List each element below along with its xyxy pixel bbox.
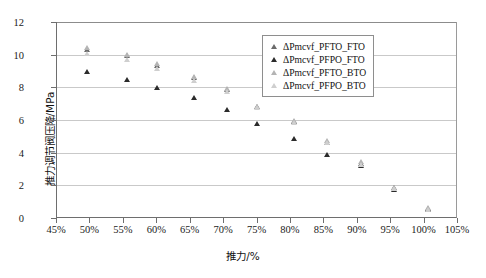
y-tick-label: 10 bbox=[0, 49, 24, 60]
triangle-marker-icon bbox=[224, 89, 230, 94]
triangle-marker-icon bbox=[191, 95, 197, 100]
y-tick-label: 6 bbox=[0, 115, 24, 126]
gridline bbox=[57, 22, 456, 23]
x-tick-mark bbox=[290, 218, 291, 223]
y-tick-mark bbox=[51, 22, 56, 23]
triangle-marker-icon bbox=[291, 120, 297, 125]
triangle-marker-icon bbox=[124, 57, 130, 62]
triangle-marker-icon bbox=[154, 85, 160, 90]
x-tick-mark bbox=[223, 218, 224, 223]
y-tick-mark bbox=[51, 153, 56, 154]
y-tick-label: 2 bbox=[0, 180, 24, 191]
x-tick-mark bbox=[123, 218, 124, 223]
triangle-marker-icon bbox=[291, 136, 297, 141]
triangle-marker-icon bbox=[254, 105, 260, 110]
plot-area bbox=[56, 22, 457, 218]
x-tick-mark bbox=[357, 218, 358, 223]
triangle-marker-icon bbox=[254, 121, 260, 126]
x-tick-label: 105% bbox=[434, 224, 480, 235]
legend-item[interactable]: ΔPmcvf_PFTO_BTO bbox=[268, 66, 366, 79]
triangle-marker-icon bbox=[324, 152, 330, 157]
y-tick-mark bbox=[51, 55, 56, 56]
y-tick-label: 8 bbox=[0, 82, 24, 93]
triangle-marker-icon bbox=[271, 70, 277, 75]
legend-item-label: ΔPmcvf_PFTO_FTO bbox=[283, 41, 365, 52]
triangle-marker-icon bbox=[154, 66, 160, 71]
x-tick-mark bbox=[323, 218, 324, 223]
y-tick-mark bbox=[51, 185, 56, 186]
x-tick-mark bbox=[89, 218, 90, 223]
triangle-marker-icon bbox=[358, 162, 364, 167]
y-tick-label: 0 bbox=[0, 213, 24, 224]
legend-item-label: ΔPmcvf_PFPO_FTO bbox=[283, 54, 365, 65]
triangle-marker-icon bbox=[268, 70, 280, 75]
y-tick-mark bbox=[51, 87, 56, 88]
x-tick-mark bbox=[257, 218, 258, 223]
legend: ΔPmcvf_PFTO_FTOΔPmcvf_PFPO_FTOΔPmcvf_PFT… bbox=[262, 35, 374, 97]
x-tick-mark bbox=[156, 218, 157, 223]
triangle-marker-icon bbox=[425, 207, 431, 212]
y-axis-title: 推力调节阀压降/MPa bbox=[42, 92, 57, 187]
x-tick-mark bbox=[457, 218, 458, 223]
x-tick-mark bbox=[390, 218, 391, 223]
x-tick-mark bbox=[424, 218, 425, 223]
triangle-marker-icon bbox=[271, 83, 277, 88]
triangle-marker-icon bbox=[84, 45, 90, 50]
x-tick-mark bbox=[56, 218, 57, 223]
legend-item[interactable]: ΔPmcvf_PFTO_FTO bbox=[268, 40, 366, 53]
legend-item-label: ΔPmcvf_PFTO_BTO bbox=[283, 67, 366, 78]
triangle-marker-icon bbox=[391, 186, 397, 191]
legend-item[interactable]: ΔPmcvf_PFPO_BTO bbox=[268, 79, 366, 92]
legend-item[interactable]: ΔPmcvf_PFPO_FTO bbox=[268, 53, 366, 66]
triangle-marker-icon bbox=[84, 69, 90, 74]
x-tick-mark bbox=[190, 218, 191, 223]
triangle-marker-icon bbox=[124, 77, 130, 82]
triangle-marker-icon bbox=[271, 57, 277, 62]
gridline bbox=[57, 55, 456, 56]
y-tick-label: 12 bbox=[0, 17, 24, 28]
triangle-marker-icon bbox=[271, 44, 277, 49]
triangle-marker-icon bbox=[84, 51, 90, 56]
triangle-marker-icon bbox=[324, 140, 330, 145]
y-tick-label: 4 bbox=[0, 147, 24, 158]
gridline bbox=[57, 87, 456, 88]
triangle-marker-icon bbox=[268, 83, 280, 88]
scatter-chart: 推力调节阀压降/MPa 024681012 45%50%55%60%65%70%… bbox=[0, 0, 486, 278]
x-axis-title: 推力/% bbox=[0, 248, 486, 263]
triangle-marker-icon bbox=[191, 78, 197, 83]
gridline bbox=[57, 153, 456, 154]
y-tick-mark bbox=[51, 120, 56, 121]
triangle-marker-icon bbox=[268, 57, 280, 62]
legend-item-label: ΔPmcvf_PFPO_BTO bbox=[283, 80, 366, 91]
triangle-marker-icon bbox=[224, 107, 230, 112]
triangle-marker-icon bbox=[268, 44, 280, 49]
